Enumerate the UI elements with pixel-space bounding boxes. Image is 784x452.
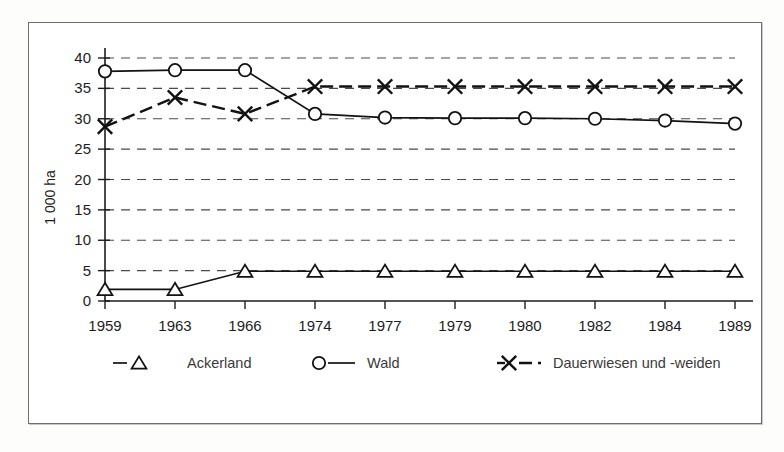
y-axis-tick-label: 15 <box>74 201 91 218</box>
legend-item-label: Wald <box>367 355 400 371</box>
y-axis-tick-label: 40 <box>74 49 91 66</box>
data-point-wald <box>449 112 461 124</box>
series-line-wald <box>105 70 735 123</box>
x-axis-tick-label: 1984 <box>648 317 681 334</box>
data-point-wald <box>309 108 321 120</box>
data-point-wald <box>589 113 601 125</box>
x-axis-tick-label: 1989 <box>718 317 751 334</box>
data-point-wald <box>99 65 111 77</box>
x-axis-tick-label: 1966 <box>228 317 261 334</box>
y-axis-tick-label: 25 <box>74 140 91 157</box>
y-axis-title: 1 000 ha <box>42 170 58 225</box>
data-point-wald <box>239 64 251 76</box>
y-axis-tick-label: 0 <box>83 292 91 309</box>
line-chart: 0510152025303540195919631966197419771979… <box>29 23 760 422</box>
series-line-ackerland <box>105 271 735 289</box>
legend-item-label: Dauerwiesen und -weiden <box>553 355 721 371</box>
y-axis-tick-label: 20 <box>74 171 91 188</box>
data-point-wald <box>379 111 391 123</box>
legend-marker-triangle-icon <box>132 356 147 368</box>
legend-item-label: Ackerland <box>187 355 251 371</box>
x-axis-tick-label: 1963 <box>158 317 191 334</box>
x-axis-tick-label: 1959 <box>88 317 121 334</box>
data-point-wald <box>519 112 531 124</box>
figure-frame: 0510152025303540195919631966197419771979… <box>28 22 762 424</box>
y-axis-tick-label: 5 <box>83 262 91 279</box>
y-axis-tick-label: 10 <box>74 231 91 248</box>
x-axis-tick-label: 1977 <box>368 317 401 334</box>
x-axis-tick-label: 1974 <box>298 317 331 334</box>
data-point-wald <box>729 117 741 129</box>
data-point-wald <box>169 64 181 76</box>
data-point-wald <box>659 114 671 126</box>
x-axis-tick-label: 1980 <box>508 317 541 334</box>
x-axis-tick-label: 1979 <box>438 317 471 334</box>
legend-marker-circle-icon <box>313 357 325 369</box>
y-axis-tick-label: 30 <box>74 110 91 127</box>
x-axis-tick-label: 1982 <box>578 317 611 334</box>
page-root: 0510152025303540195919631966197419771979… <box>0 0 784 452</box>
y-axis-tick-label: 35 <box>74 79 91 96</box>
